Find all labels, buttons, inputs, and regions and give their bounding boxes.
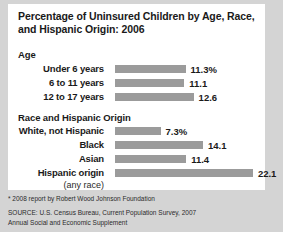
bar xyxy=(115,65,186,73)
bar-value-label: 11.1 xyxy=(189,78,207,90)
chart-figure: Percentage of Uninsured Children by Age,… xyxy=(0,0,283,232)
bar-category-label: 6 to 11 years xyxy=(8,77,104,89)
bar xyxy=(115,127,161,135)
source-line-1: SOURCE: U.S. Census Bureau, Current Popu… xyxy=(8,208,196,218)
bar-track: 11.3% xyxy=(115,65,186,73)
bar-value-label: 14.1 xyxy=(208,140,227,152)
source-line-2: Annual Social and Economic Supplement xyxy=(8,218,196,228)
bar-value-label: 11.4 xyxy=(191,154,209,166)
bar-track: 14.1 xyxy=(115,141,203,149)
bar-row: 6 to 11 years11.1 xyxy=(8,77,265,91)
bar-category-label: White, not Hispanic xyxy=(8,125,104,137)
bar-row: Asian11.4 xyxy=(8,153,265,167)
bar-value-label: 12.6 xyxy=(199,92,218,104)
bar-row: Hispanic origin22.1 xyxy=(8,167,265,181)
bar-group-race: White, not Hispanic7.3%Black14.1Asian11.… xyxy=(8,125,265,181)
bar xyxy=(115,169,253,177)
chart-title: Percentage of Uninsured Children by Age,… xyxy=(18,10,256,36)
bar-row: 12 to 17 years12.6 xyxy=(8,91,265,105)
bar-category-label: Hispanic origin xyxy=(8,167,104,179)
bar-row: White, not Hispanic7.3% xyxy=(8,125,265,139)
bar xyxy=(115,141,203,149)
bar-category-label: Black xyxy=(8,139,104,151)
bar-track: 11.1 xyxy=(115,79,184,87)
bar-value-label: 22.1 xyxy=(258,168,277,180)
chart-panel: Percentage of Uninsured Children by Age,… xyxy=(8,4,265,190)
section-heading-race: Race and Hispanic Origin xyxy=(18,112,131,123)
bar xyxy=(115,155,186,163)
bar-row: Black14.1 xyxy=(8,139,265,153)
bar-track: 7.3% xyxy=(115,127,161,135)
bar-track: 22.1 xyxy=(115,169,253,177)
footnote-text: * 2008 report by Robert Wood Johnson Fou… xyxy=(8,194,155,203)
hispanic-sublabel: (any race) xyxy=(8,180,104,191)
bar-category-label: Under 6 years xyxy=(8,63,104,75)
bar-track: 11.4 xyxy=(115,155,186,163)
bar-value-label: 11.3% xyxy=(191,64,217,76)
bar xyxy=(115,93,194,101)
bar-category-label: Asian xyxy=(8,153,104,165)
bar xyxy=(115,79,184,87)
bar-value-label: 7.3% xyxy=(166,126,188,138)
section-heading-age: Age xyxy=(18,49,36,60)
bar-category-label: 12 to 17 years xyxy=(8,91,104,103)
bar-group-age: Under 6 years11.3%6 to 11 years11.112 to… xyxy=(8,63,265,105)
bar-track: 12.6 xyxy=(115,93,194,101)
bar-row: Under 6 years11.3% xyxy=(8,63,265,77)
source-note: SOURCE: U.S. Census Bureau, Current Popu… xyxy=(8,208,196,227)
